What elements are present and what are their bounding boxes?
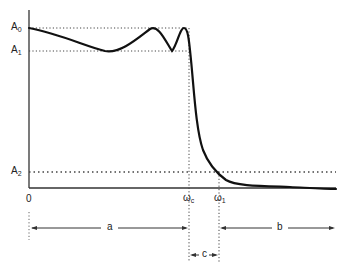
arrowhead-icon <box>182 226 188 230</box>
arrowhead-icon <box>329 226 335 230</box>
label-a2-base: A <box>11 165 18 176</box>
label-band-a: a <box>107 222 113 232</box>
response-curve <box>29 28 336 189</box>
label-band-b: b <box>277 222 283 232</box>
label-a1: A1 <box>11 45 22 55</box>
label-a0: A0 <box>11 22 22 32</box>
label-band-c: c <box>202 249 207 259</box>
arrowhead-icon <box>31 226 37 230</box>
arrowhead-icon <box>190 253 196 257</box>
label-a1-base: A <box>11 44 18 55</box>
label-wc-sub: c <box>191 197 195 204</box>
label-a0-base: A <box>11 21 18 32</box>
arrowhead-icon <box>220 226 226 230</box>
label-wc-base: ω <box>183 192 191 203</box>
label-wc: ωc <box>183 193 194 203</box>
label-w1-base: ω <box>214 192 222 203</box>
filter-response-diagram <box>0 0 349 276</box>
label-a0-sub: 0 <box>18 26 22 33</box>
label-w1: ω1 <box>214 193 226 203</box>
label-a1-sub: 1 <box>18 49 22 56</box>
label-origin: 0 <box>26 194 32 204</box>
label-a2: A2 <box>11 166 22 176</box>
label-a2-sub: 2 <box>18 170 22 177</box>
label-w1-sub: 1 <box>222 197 226 204</box>
arrowhead-icon <box>212 253 218 257</box>
